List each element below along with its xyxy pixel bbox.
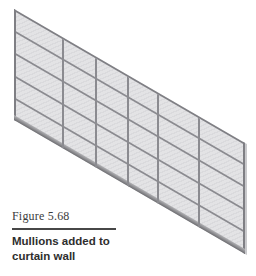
- figure-number-label: Figure 5.68: [12, 209, 132, 223]
- caption-divider-rule: [12, 228, 116, 230]
- vertical-mullion: [127, 77, 129, 187]
- figure-caption-text: Mullions added to curtain wall: [12, 234, 124, 264]
- vertical-mullion: [95, 58, 97, 168]
- vertical-mullion: [198, 118, 200, 228]
- vertical-mullion: [62, 39, 64, 149]
- right-edge-return: [245, 143, 247, 255]
- figure-caption-block: Figure 5.68 Mullions added to curtain wa…: [12, 209, 132, 264]
- vertical-mullion: [157, 94, 159, 204]
